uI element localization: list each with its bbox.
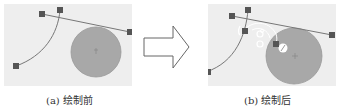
control-handle[interactable] bbox=[229, 13, 235, 19]
tangent-mark bbox=[239, 26, 241, 35]
caption-after: (b) 绘制后 bbox=[244, 92, 291, 107]
intersection-marker bbox=[257, 41, 263, 47]
control-handle[interactable] bbox=[13, 63, 19, 69]
caption-before: (a) 绘制前 bbox=[46, 92, 93, 107]
tangent-handle[interactable] bbox=[273, 41, 279, 47]
control-handle[interactable] bbox=[39, 11, 45, 17]
canvas-after bbox=[208, 4, 336, 86]
control-handle[interactable] bbox=[208, 69, 211, 75]
panel-after-drawing bbox=[208, 4, 336, 86]
curve-line bbox=[16, 10, 60, 66]
intersection-marker bbox=[257, 31, 263, 37]
right-arrow-icon bbox=[143, 25, 191, 69]
curve-line bbox=[208, 10, 248, 72]
control-handle[interactable] bbox=[127, 29, 132, 35]
tangent-handle[interactable] bbox=[242, 28, 248, 34]
control-handle[interactable] bbox=[245, 7, 251, 13]
control-handle[interactable] bbox=[57, 7, 63, 13]
control-handle[interactable] bbox=[329, 32, 335, 38]
canvas-before bbox=[4, 4, 132, 86]
panel-before-drawing bbox=[4, 4, 132, 86]
